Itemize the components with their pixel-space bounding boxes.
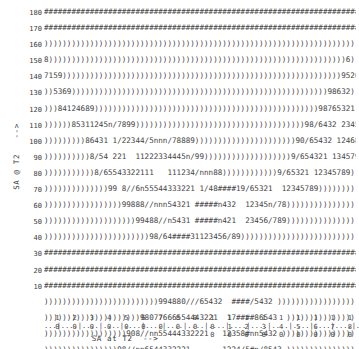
x-tick-label: 170	[326, 314, 340, 340]
x-tick-label: 40	[102, 314, 116, 331]
ascii-row: 8)))))))))))))))))))))))))))))))))))))))…	[44, 52, 356, 68]
y-tick-label: 100	[18, 134, 42, 150]
y-tick-label: 160	[18, 37, 42, 53]
x-tick-label: 80	[171, 314, 185, 331]
y-tick-label: 110	[18, 118, 42, 134]
ascii-contour-plot: SA @ T2 --> 1801701601501401301201101009…	[0, 0, 359, 349]
ascii-row: )))))))))86431 1/22344/5nnn/78889)))))))…	[44, 133, 356, 149]
y-tick-label: 20	[18, 263, 42, 279]
y-tick-label: 130	[18, 85, 42, 101]
x-tick-label: 90	[188, 314, 202, 331]
ascii-row: ))))))85311245n/7899))))))))))))))))))))…	[44, 117, 356, 133]
y-tick-label: 70	[18, 182, 42, 198]
ascii-row: ########################################…	[44, 4, 356, 20]
ascii-row: )))84124689)))))))))))))))))))))))))))))…	[44, 101, 356, 117]
ascii-row: ########################################…	[44, 262, 356, 278]
ascii-row: ))))))))))))))99 8//6n55544333221 1/48##…	[44, 181, 356, 197]
x-tick-label: 10	[50, 314, 64, 331]
y-tick-label: 170	[18, 21, 42, 37]
ascii-row: )))))))))))8/65543322111 111234/nnn88)))…	[44, 165, 356, 181]
y-tick-label: 180	[18, 5, 42, 21]
ascii-row: ))5369))))))))))))))))))))))))))))))))))…	[44, 84, 356, 100]
ascii-row: 7159))))))))))))))))))))))))))))))))))))…	[44, 68, 356, 84]
x-tick-label: 180	[343, 314, 357, 340]
y-tick-label: 80	[18, 166, 42, 182]
y-tick-label: 40	[18, 230, 42, 246]
x-tick-label: 70	[154, 314, 168, 331]
y-tick-label: 140	[18, 69, 42, 85]
y-tick-label: 90	[18, 150, 42, 166]
x-tick-label: 160	[309, 314, 323, 340]
x-tick-label: 130	[257, 314, 271, 340]
y-tick-label: 30	[18, 246, 42, 262]
x-tick-label: 140	[274, 314, 288, 340]
x-tick-label: 20	[68, 314, 82, 331]
x-tick-label: 30	[85, 314, 99, 331]
y-tick-label: 10	[18, 279, 42, 295]
y-axis-tick-labels: 1801701601501401301201101009080706050403…	[18, 5, 42, 295]
ascii-row: ))))))))))))))))))))))))))))))))))))))))…	[44, 36, 356, 52]
x-tick-label: 150	[291, 314, 305, 340]
y-tick-label: 150	[18, 53, 42, 69]
x-axis-label: SA at T2 -->	[0, 334, 250, 343]
x-tick-label: 60	[136, 314, 150, 331]
ascii-row: ########################################…	[44, 278, 356, 294]
ascii-row: ########################################…	[44, 20, 356, 36]
x-tick-label: 50	[119, 314, 133, 331]
ascii-row: ))))))))))))))))))))99488//n5431 #####n4…	[44, 213, 356, 229]
ascii-row: )))))))))))))))))99888//nnn54321 #####n4…	[44, 197, 356, 213]
ascii-row: )))))))))))))))))))))))98/64####31123456…	[44, 229, 356, 245]
ascii-row: ########################################…	[44, 245, 356, 261]
y-tick-label: 60	[18, 198, 42, 214]
ascii-row: ))))))))))8/54 221 11222334445n/99))))))…	[44, 149, 356, 165]
ascii-density-field: ########################################…	[44, 4, 356, 349]
y-tick-label: 120	[18, 102, 42, 118]
y-tick-label: 50	[18, 214, 42, 230]
